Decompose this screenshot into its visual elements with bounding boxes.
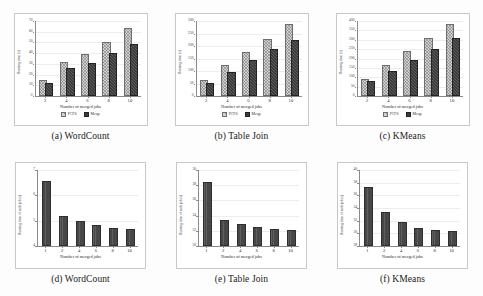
x-tick-mark (113, 246, 114, 248)
bar-d-4 (76, 221, 85, 246)
chart-panel-d: 45671246810Number of merged jobsRunning … (15, 162, 146, 269)
y-tick-label: 150 (349, 66, 354, 70)
legend-item-Merge: Merge (245, 112, 262, 117)
bar-f-8 (431, 230, 440, 246)
x-tick-label: 2 (205, 99, 207, 104)
x-tick-mark (435, 246, 436, 248)
bar-a-6-Merge (88, 63, 96, 96)
y-axis-line (359, 170, 360, 246)
x-tick-mark (367, 96, 368, 98)
x-axis-label: Number of merged jobs (15, 105, 147, 109)
legend-label-FCFS: FCFS (229, 113, 238, 117)
y-tick-label: 150 (188, 57, 193, 61)
y-tick-label: 400 (349, 19, 354, 23)
x-tick-mark (130, 246, 131, 248)
legend-item-FCFS: FCFS (222, 112, 238, 117)
x-tick-label: 8 (108, 99, 110, 104)
y-gridline (359, 233, 460, 234)
y-gridline (198, 170, 299, 171)
legend-label-Merge: Merge (251, 113, 261, 117)
chart-legend: FCFSMerge (176, 112, 308, 117)
panel-caption-a: (a) WordCount (51, 131, 109, 141)
y-tick-label: 100 (349, 75, 354, 79)
x-tick-label: 6 (417, 249, 419, 254)
chart-panel-c: 050100150200250300350400246810Number of … (336, 13, 470, 126)
panel-cell-a: 010203040506070246810Number of merged jo… (0, 0, 161, 150)
x-tick-label: 8 (269, 99, 271, 104)
y-gridline (359, 170, 460, 171)
legend-swatch-FCFS (222, 112, 227, 117)
x-tick-mark (270, 96, 271, 98)
bar-b-6-Merge (249, 60, 257, 96)
bar-d-10 (126, 229, 135, 246)
plot-area-e (198, 170, 299, 246)
bar-f-1 (364, 187, 373, 246)
x-axis-label: Number of merged jobs (16, 255, 145, 259)
y-axis-label: Running time (s) (179, 50, 183, 74)
y-gridline (198, 231, 299, 232)
bar-a-4-Merge (66, 68, 74, 96)
y-axis-label: Running time of each job (s) (180, 194, 184, 234)
panel-caption-e: (e) Table Join (215, 274, 268, 284)
legend-item-Merge: Merge (406, 112, 423, 117)
chart-legend: FCFSMerge (15, 112, 147, 117)
y-gridline (37, 221, 138, 222)
x-tick-mark (206, 246, 207, 248)
x-tick-label: 4 (226, 99, 228, 104)
x-tick-mark (66, 96, 67, 98)
x-tick-mark (452, 246, 453, 248)
x-tick-mark (240, 246, 241, 248)
x-tick-mark (367, 246, 368, 248)
y-gridline (359, 221, 460, 222)
x-tick-label: 8 (434, 249, 436, 254)
legend-label-FCFS: FCFS (390, 113, 399, 117)
panel-caption-c: (c) KMeans (379, 131, 425, 141)
bar-c-2-Merge (367, 81, 375, 96)
bar-a-2-Merge (45, 83, 53, 96)
bar-f-10 (448, 231, 457, 246)
plot-area-a (35, 21, 141, 96)
y-tick-label: 350 (349, 29, 354, 33)
bar-b-8-Merge (270, 49, 278, 96)
y-axis-line (35, 21, 36, 96)
x-tick-mark (291, 246, 292, 248)
chart-panel-b: 050100150200250300246810Number of merged… (175, 13, 309, 126)
x-tick-mark (274, 246, 275, 248)
y-axis-label: Running time of each job (s) (19, 194, 23, 234)
y-gridline (37, 170, 138, 171)
legend-label-Merge: Merge (412, 113, 422, 117)
x-tick-mark (257, 246, 258, 248)
x-tick-label: 10 (288, 249, 293, 254)
x-tick-label: 2 (366, 99, 368, 104)
x-tick-mark (384, 246, 385, 248)
bar-f-2 (381, 212, 390, 246)
x-tick-label: 8 (112, 249, 114, 254)
legend-item-FCFS: FCFS (61, 112, 77, 117)
x-tick-label: 4 (78, 249, 80, 254)
x-axis-label: Number of merged jobs (177, 255, 306, 259)
y-axis-label: Running time (s) (18, 50, 22, 74)
x-axis-line (198, 246, 299, 247)
x-tick-label: 6 (86, 99, 88, 104)
y-tick-label: 250 (349, 47, 354, 51)
bar-d-6 (92, 225, 101, 246)
bar-e-1 (203, 182, 212, 246)
plot-area-f (359, 170, 460, 246)
y-axis-label: Running time (s) (340, 50, 344, 74)
x-tick-mark (109, 96, 110, 98)
y-tick-label: 300 (188, 19, 193, 23)
plot-area-b (196, 21, 302, 96)
x-tick-label: 6 (256, 249, 258, 254)
bar-b-4-Merge (227, 72, 235, 97)
x-tick-label: 4 (65, 99, 67, 104)
x-tick-mark (88, 96, 89, 98)
figure-grid: 010203040506070246810Number of merged jo… (0, 0, 483, 296)
x-tick-mark (96, 246, 97, 248)
x-tick-label: 1 (44, 249, 46, 254)
bar-c-8-Merge (431, 49, 439, 96)
x-tick-label: 2 (44, 99, 46, 104)
x-tick-label: 10 (127, 249, 132, 254)
bar-e-8 (270, 229, 279, 246)
legend-swatch-Merge (84, 112, 89, 117)
x-tick-label: 1 (366, 249, 368, 254)
